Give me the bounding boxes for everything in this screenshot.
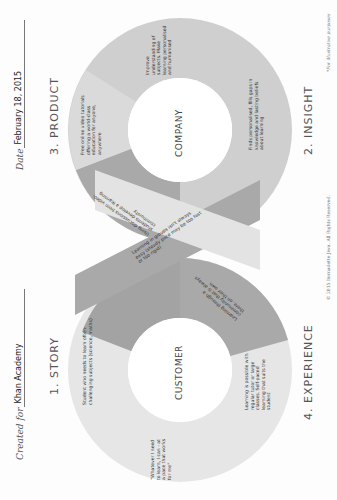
note-insight-finds: Finds personalised, fills gaps in knowle… [248,70,265,150]
note-story-need: Student who needs to learn often-challen… [82,315,93,405]
copyright-text: © 2015 Bernadette Jiwa. All Rights Reser… [326,195,331,300]
note-insight-improve: Improve understanding of subjects. Make … [145,25,173,75]
story-loop-canvas: Created for Khan Academy Date February 1… [0,0,337,500]
step-experience: 4. EXPERIENCE [302,324,315,420]
company-label: COMPANY [174,109,184,157]
customer-label: CUSTOMER [174,345,184,400]
note-product: Free online video tutorials offering a w… [80,85,102,155]
step-story: 1. STORY [48,337,61,395]
step-product: 3. PRODUCT [48,77,61,155]
note-story-quote: "Whatever I need to learn, I can - at a … [150,438,172,480]
figure-eight-diagram [0,0,337,500]
disclaimer-text: *For illustrative purposes [326,14,331,72]
note-experience-possible: Learning is possible with regular tutor … [244,350,272,410]
step-insight: 2. INSIGHT [302,86,315,155]
